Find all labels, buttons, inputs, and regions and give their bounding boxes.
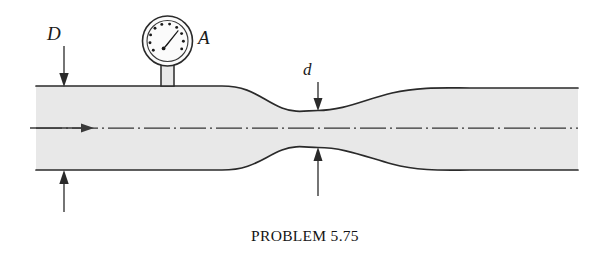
gauge-label: A [198,28,210,47]
venturi-diagram [0,0,610,261]
inlet-diameter-arrow-up-icon [59,170,68,212]
problem-figure: D A d PROBLEM 5.75 [0,0,610,261]
inlet-diameter-arrow-down-icon [59,46,68,87]
gauge-needle-hub [162,47,166,51]
throat-diameter-label: d [303,61,312,78]
pressure-gauge-icon [143,16,193,86]
inlet-diameter-label: D [47,24,61,43]
throat-diameter-arrow-up-icon [314,147,323,196]
gauge-dial-outer [143,16,193,66]
figure-caption: PROBLEM 5.75 [0,227,610,245]
throat-diameter-arrow-down-icon [314,82,323,111]
